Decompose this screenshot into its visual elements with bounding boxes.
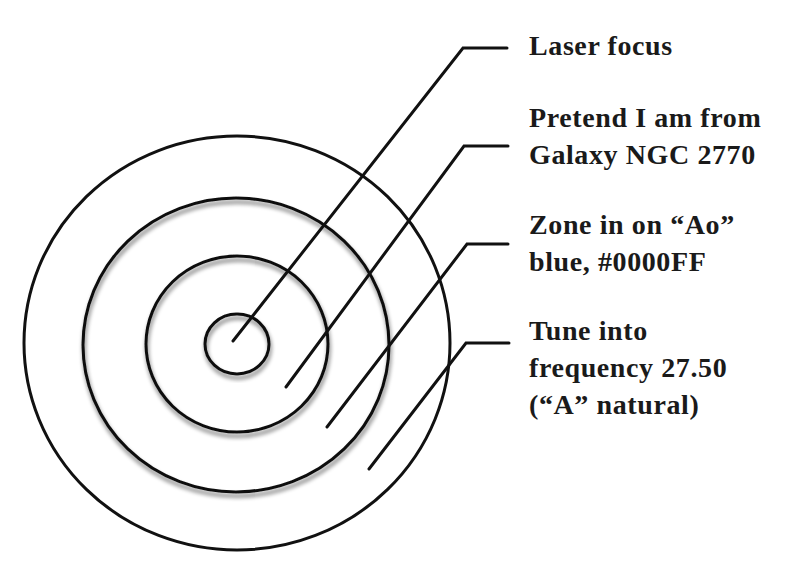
label-line: frequency 27.50 <box>529 349 727 386</box>
leader-line-zone-blue <box>327 244 508 427</box>
label-zone-blue: Zone in on “Ao” blue, #0000FF <box>529 206 735 280</box>
second-ring <box>83 198 389 492</box>
leader-line-laser-focus <box>233 48 507 341</box>
label-line: Laser focus <box>529 27 673 64</box>
label-line: blue, #0000FF <box>529 243 735 280</box>
label-line: Galaxy NGC 2770 <box>529 136 761 173</box>
label-line: (“A” natural) <box>529 386 727 423</box>
inner-ring <box>205 314 269 374</box>
label-line: Tune into <box>529 312 727 349</box>
target-diagram <box>0 0 804 577</box>
third-ring <box>146 256 328 432</box>
label-galaxy: Pretend I am from Galaxy NGC 2770 <box>529 99 761 173</box>
label-laser-focus: Laser focus <box>529 27 673 64</box>
leader-line-galaxy <box>286 146 508 387</box>
label-line: Zone in on “Ao” <box>529 206 735 243</box>
label-line: Pretend I am from <box>529 99 761 136</box>
label-tune-frequency: Tune into frequency 27.50 (“A” natural) <box>529 312 727 423</box>
